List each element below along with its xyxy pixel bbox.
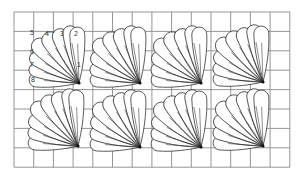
petal-number-6: 6 bbox=[30, 48, 34, 55]
fan-motif bbox=[149, 89, 209, 154]
fan-motif bbox=[211, 24, 271, 89]
fan-motifs bbox=[26, 24, 271, 154]
fan-motif bbox=[88, 25, 148, 90]
fan-focal-point bbox=[199, 81, 202, 84]
diagram-canvas: 12345678 bbox=[0, 0, 305, 176]
fan-motif bbox=[211, 88, 271, 153]
fan-motif bbox=[88, 89, 148, 154]
fan-focal-point bbox=[261, 144, 264, 147]
fan-focal-point bbox=[138, 145, 141, 148]
petal-number-4: 4 bbox=[45, 30, 49, 37]
fan-focal-point bbox=[77, 81, 80, 84]
fan-quilt-diagram: 12345678 bbox=[0, 0, 305, 176]
petal-number-5: 5 bbox=[30, 29, 34, 36]
fan-motif bbox=[26, 88, 86, 153]
fan-focal-point bbox=[261, 80, 264, 83]
petal-number-2: 2 bbox=[74, 30, 78, 37]
fan-focal-point bbox=[76, 144, 79, 147]
petal-number-1: 1 bbox=[77, 61, 81, 68]
petal-number-3: 3 bbox=[60, 30, 64, 37]
fan-motif bbox=[149, 25, 209, 90]
fan-focal-point bbox=[199, 145, 202, 148]
petal-number-8: 8 bbox=[31, 76, 35, 83]
petal-number-7: 7 bbox=[30, 61, 34, 68]
fan-focal-point bbox=[138, 81, 141, 84]
